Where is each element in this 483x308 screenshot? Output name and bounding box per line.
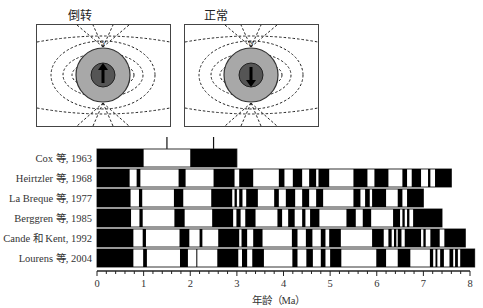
x-tick-label: 8	[467, 278, 472, 289]
normal-polarity-interval	[200, 229, 203, 247]
normal-polarity-interval	[309, 169, 316, 187]
normal-polarity-interval	[214, 169, 235, 187]
normal-polarity-interval	[252, 249, 264, 267]
normal-polarity-interval	[143, 249, 147, 267]
normal-polarity-interval	[435, 249, 437, 267]
x-tick-label: 4	[281, 278, 287, 289]
normal-polarity-interval	[245, 209, 255, 227]
normal-polarity-interval	[321, 229, 326, 247]
normal-polarity-interval	[430, 229, 439, 247]
normal-polarity-interval	[444, 229, 465, 247]
normal-polarity-interval	[137, 169, 141, 187]
normal-polarity-interval	[346, 209, 355, 227]
normal-polarity-interval	[423, 229, 425, 247]
normal-polarity-interval	[306, 229, 313, 247]
normal-polarity-interval	[306, 249, 313, 267]
normal-polarity-interval	[365, 189, 370, 207]
normal-polarity-interval	[97, 169, 130, 187]
normal-polarity-interval	[407, 209, 409, 227]
normal-polarity-interval	[353, 189, 360, 207]
normal-polarity-interval	[435, 169, 451, 187]
x-tick-label: 7	[421, 278, 426, 289]
normal-polarity-interval	[217, 249, 238, 267]
normal-polarity-interval	[430, 249, 433, 267]
normal-polarity-interval	[180, 229, 190, 247]
normal-polarity-interval	[374, 169, 388, 187]
normal-polarity-interval	[293, 169, 302, 187]
normal-polarity-interval	[318, 169, 329, 187]
normal-polarity-interval	[253, 229, 262, 247]
dipole-field-normal: N	[185, 25, 318, 126]
normal-polarity-interval	[286, 189, 295, 207]
dipole-field-reversed: S	[37, 25, 170, 126]
row-background	[97, 209, 442, 227]
normal-polarity-interval	[302, 209, 305, 227]
row-label: La Breque 等, 1977	[9, 192, 92, 204]
normal-polarity-interval	[316, 189, 323, 207]
normal-polarity-interval	[277, 209, 282, 227]
x-tick-label: 6	[374, 278, 379, 289]
row-background	[97, 169, 451, 187]
normal-polarity-interval	[97, 249, 133, 267]
normal-polarity-interval	[329, 229, 341, 247]
normal-polarity-interval	[449, 249, 453, 267]
normal-polarity-interval	[310, 209, 319, 227]
normal-polarity-interval	[372, 189, 386, 207]
normal-polarity-interval	[246, 189, 258, 207]
normal-polarity-interval	[97, 209, 131, 227]
x-axis-title: 年龄（Ma）	[252, 294, 306, 306]
normal-polarity-interval	[398, 189, 403, 207]
normal-polarity-interval	[274, 189, 279, 207]
pole-label: N	[248, 39, 253, 47]
normal-polarity-interval	[398, 249, 411, 267]
polarity-timescale-chart: Cox 等, 1963Heirtzler 等, 1968La Breque 等,…	[0, 130, 483, 308]
normal-polarity-interval	[402, 169, 407, 187]
row-background	[97, 249, 475, 267]
normal-polarity-interval	[407, 189, 423, 207]
normal-polarity-interval	[402, 209, 404, 227]
normal-polarity-interval	[372, 229, 384, 247]
normal-polarity-interval	[97, 229, 133, 247]
normal-polarity-interval	[174, 209, 184, 227]
diagram-title-normal: 正常	[186, 6, 246, 24]
x-tick-label: 2	[188, 278, 193, 289]
x-tick-label: 3	[234, 278, 239, 289]
normal-polarity-interval	[412, 169, 421, 187]
normal-polarity-interval	[428, 169, 430, 187]
row-label: Cande 和 Kent, 1992	[3, 233, 92, 244]
field-diagram-normal: N	[184, 24, 319, 127]
normal-polarity-interval	[393, 209, 400, 227]
normal-polarity-interval	[97, 149, 144, 167]
row-label: Lourens 等, 2004	[19, 252, 93, 264]
normal-polarity-interval	[139, 209, 142, 227]
row-label: Cox 等, 1963	[36, 152, 92, 164]
row-label: Heirtzler 等, 1968	[16, 172, 92, 184]
normal-polarity-interval	[394, 229, 396, 247]
field-diagram-reversed: S	[36, 24, 171, 127]
normal-polarity-interval	[143, 229, 146, 247]
pole-label: S	[101, 39, 105, 47]
normal-polarity-interval	[302, 189, 309, 207]
normal-polarity-interval	[196, 249, 197, 267]
normal-polarity-interval	[242, 229, 248, 247]
normal-polarity-interval	[353, 169, 367, 187]
normal-polarity-interval	[388, 229, 391, 247]
normal-polarity-interval	[288, 209, 295, 227]
normal-polarity-interval	[139, 189, 142, 207]
normal-polarity-interval	[242, 249, 247, 267]
normal-polarity-interval	[239, 169, 253, 187]
diagram-title-reversed: 倒转	[50, 6, 110, 24]
normal-polarity-interval	[292, 229, 298, 247]
normal-polarity-interval	[235, 189, 237, 207]
normal-polarity-interval	[398, 229, 402, 247]
normal-polarity-interval	[211, 189, 232, 207]
x-tick-label: 0	[94, 278, 99, 289]
row-label: Berggren 等, 1985	[14, 212, 92, 224]
normal-polarity-interval	[180, 249, 188, 267]
normal-polarity-interval	[190, 149, 237, 167]
normal-polarity-interval	[212, 209, 233, 227]
normal-polarity-interval	[330, 249, 341, 267]
normal-polarity-interval	[460, 249, 474, 267]
normal-polarity-interval	[440, 249, 444, 267]
x-tick-label: 5	[328, 278, 333, 289]
